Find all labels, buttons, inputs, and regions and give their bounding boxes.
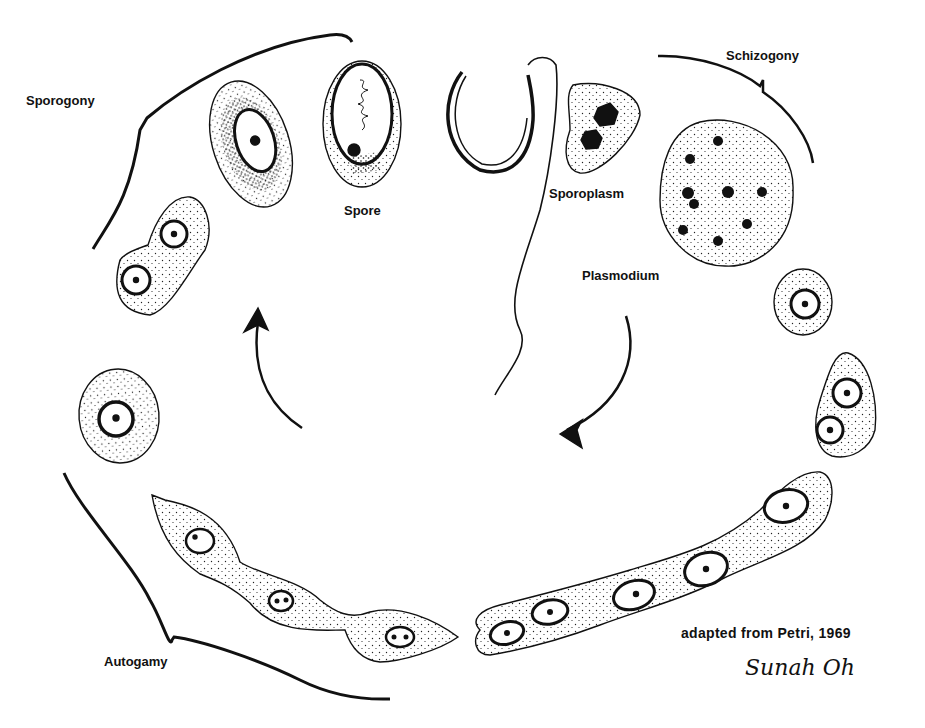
label-spore: Spore: [344, 203, 381, 218]
artist-signature: Sunah Oh: [745, 655, 855, 680]
polar-capsule: [448, 58, 557, 396]
life-cycle-diagram: Sporogony Spore Sporoplasm Schizogony Pl…: [0, 0, 925, 728]
label-plasmodium: Plasmodium: [582, 268, 659, 283]
binucleate-cell-right: [816, 353, 876, 457]
diagram-drawing: [0, 0, 925, 728]
source-credit: adapted from Petri, 1969: [681, 625, 851, 641]
uninucleate-cell-right: [774, 269, 832, 335]
label-sporogony: Sporogony: [26, 93, 95, 108]
cycle-arrow-left: [244, 308, 302, 428]
sporogony-oval-cell: [195, 70, 307, 217]
autogamy-chain: [152, 495, 458, 662]
sporogony-binucleate-cell: [117, 197, 209, 315]
label-sporoplasm: Sporoplasm: [549, 186, 624, 201]
cycle-arrow-right: [560, 316, 630, 448]
uninucleate-cell-left: [75, 366, 163, 467]
label-schizogony: Schizogony: [726, 48, 799, 63]
sporoplasm: [566, 84, 640, 173]
plasmodium: [660, 120, 793, 266]
label-autogamy: Autogamy: [104, 654, 168, 669]
polar-filament: [495, 58, 557, 396]
spore: [323, 61, 401, 187]
